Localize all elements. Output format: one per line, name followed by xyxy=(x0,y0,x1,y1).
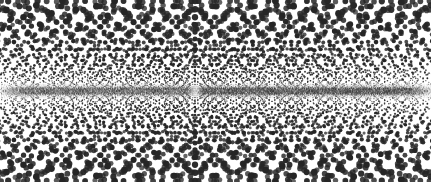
scatter-plot-figure xyxy=(0,0,431,182)
scatter-plot-canvas xyxy=(0,0,431,182)
